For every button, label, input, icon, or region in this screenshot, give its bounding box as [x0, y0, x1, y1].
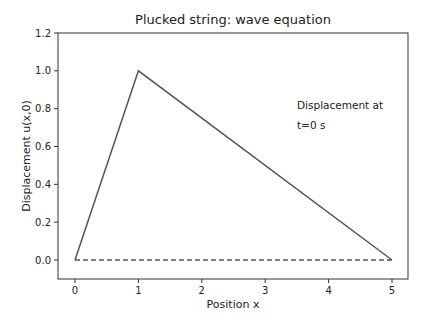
x-tick-label: 4 [325, 285, 331, 296]
x-axis-label: Position x [207, 298, 260, 311]
x-axis-ticks: 012345 [72, 279, 395, 296]
annotation-line1: Displacement at [297, 99, 383, 111]
chart: Plucked string: wave equation 0.00.20.40… [0, 0, 429, 323]
y-tick-label: 0.8 [35, 103, 51, 114]
y-tick-label: 1.2 [35, 28, 51, 39]
y-tick-label: 0.2 [35, 217, 51, 228]
x-tick-label: 0 [72, 285, 78, 296]
y-tick-label: 0.0 [35, 255, 51, 266]
y-axis-ticks: 0.00.20.40.60.81.01.2 [35, 28, 58, 266]
x-tick-label: 3 [262, 285, 268, 296]
x-tick-label: 2 [199, 285, 205, 296]
y-tick-label: 0.6 [35, 141, 51, 152]
chart-title: Plucked string: wave equation [135, 12, 331, 27]
y-tick-label: 1.0 [35, 65, 51, 76]
y-axis-label: Displacement u(x,0) [20, 100, 33, 212]
y-tick-label: 0.4 [35, 179, 51, 190]
x-tick-label: 5 [389, 285, 395, 296]
annotation-line2: t=0 s [297, 119, 325, 131]
x-tick-label: 1 [135, 285, 141, 296]
